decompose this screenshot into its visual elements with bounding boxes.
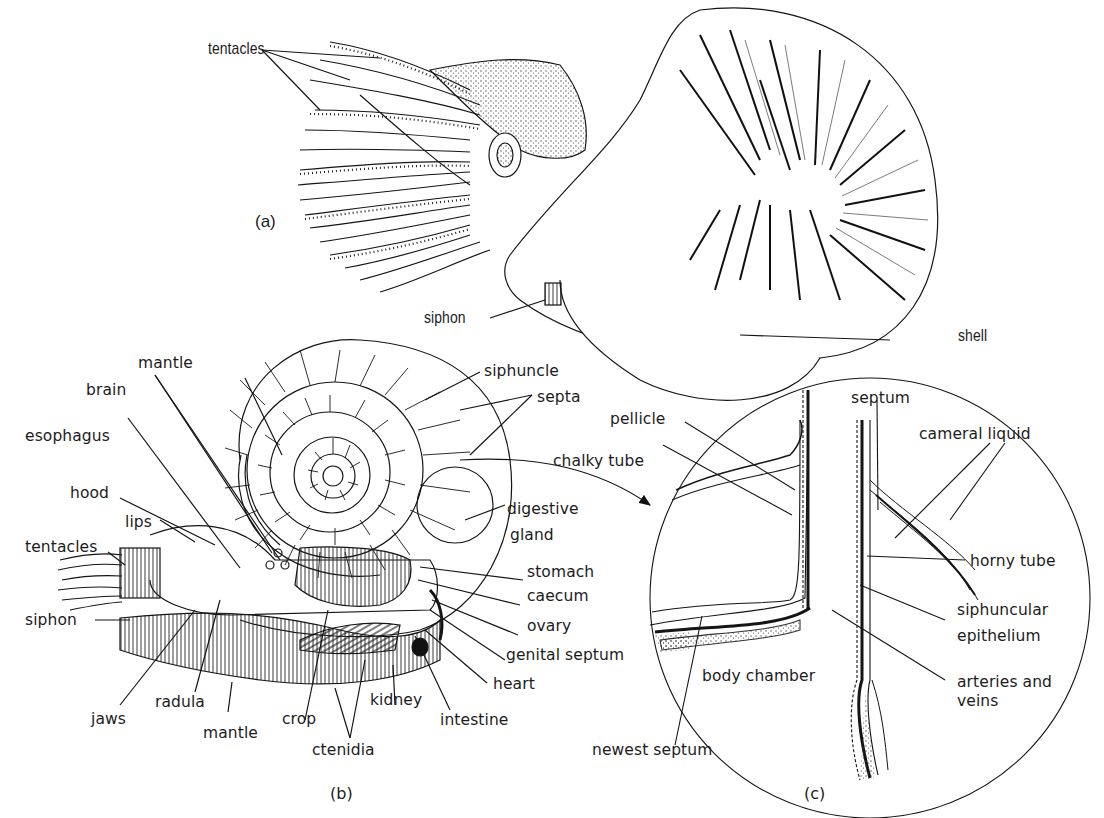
label-b-lips: lips <box>125 513 152 531</box>
label-b-siphon: siphon <box>25 611 77 629</box>
label-b-septa: septa <box>537 388 581 406</box>
label-b-jaws: jaws <box>91 710 126 728</box>
label-c-siphuncular-line1: siphuncular <box>957 601 1048 619</box>
label-b-ctenidia: ctenidia <box>312 741 375 759</box>
label-c-arteries-line2: veins <box>957 692 998 710</box>
label-b-intestine: intestine <box>440 711 508 729</box>
panel-letter-a: (a) <box>255 212 276 232</box>
label-b-heart: heart <box>493 675 535 693</box>
panel-letter-c: (c) <box>804 784 825 803</box>
panel-a-drawing <box>262 8 938 400</box>
label-b-tentacles: tentacles <box>25 538 97 556</box>
label-b-esophagus: esophagus <box>25 427 110 445</box>
label-c-arteries-line1: arteries and <box>957 673 1052 691</box>
label-b-genital-septum: genital septum <box>506 646 624 664</box>
label-a-tentacles: tentacles <box>208 40 265 58</box>
panel-letter-b: (b) <box>330 784 353 803</box>
label-c-cameral-liquid: cameral liquid <box>919 425 1031 443</box>
label-c-chalky-tube: chalky tube <box>553 452 644 470</box>
label-c-pellicle: pellicle <box>610 410 665 428</box>
label-c-septum: septum <box>851 389 910 407</box>
label-c-body-chamber: body chamber <box>702 667 815 685</box>
label-c-siphuncular-line2: epithelium <box>957 627 1041 645</box>
label-c-newest-septum: newest septum <box>592 741 712 759</box>
nautilus-figure: tentacles siphon shell (a) mantle brain … <box>0 0 1104 818</box>
label-b-digestive-gland-line2: gland <box>510 526 554 544</box>
label-b-radula: radula <box>155 693 205 711</box>
label-b-brain: brain <box>86 381 126 399</box>
label-b-mantle-bottom: mantle <box>203 724 258 742</box>
label-c-horny-tube: horny tube <box>970 552 1056 570</box>
label-b-ovary: ovary <box>527 617 571 635</box>
label-b-kidney: kidney <box>370 691 422 709</box>
label-b-stomach: stomach <box>527 563 594 581</box>
label-b-digestive-gland-line1: digestive <box>507 500 579 518</box>
label-b-crop: crop <box>282 710 316 728</box>
label-a-shell: shell <box>958 327 987 345</box>
label-b-caecum: caecum <box>527 587 589 605</box>
label-b-mantle-top: mantle <box>138 354 193 372</box>
label-a-siphon: siphon <box>424 309 466 327</box>
label-b-siphuncle: siphuncle <box>484 362 559 380</box>
label-b-hood: hood <box>70 484 109 502</box>
